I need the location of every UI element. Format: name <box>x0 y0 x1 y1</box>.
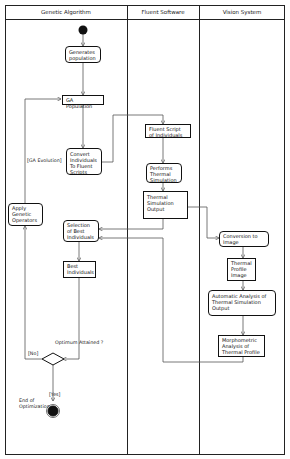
node-fluent-script: Fluent Script of Individuals <box>145 124 191 138</box>
label-no: [No] <box>28 351 38 357</box>
label-yes: [Yes] <box>49 392 61 398</box>
node-thermal-simulation-output: Thermal Simulation Output <box>143 191 188 219</box>
node-apply-genetic-operators: Apply Genetic Operators <box>8 203 43 226</box>
label-end-of-optimization: End of Optimization <box>19 398 49 409</box>
connector-lines <box>0 0 290 459</box>
node-ga-population: GA Population <box>62 95 104 105</box>
node-thermal-profile-image: Thermal Profile Image <box>227 258 256 281</box>
node-selection-best-individuals: Selection of Best Individuals <box>63 220 99 242</box>
start-node <box>79 26 88 35</box>
node-best-individuals: Best Individuals <box>63 261 96 278</box>
node-automatic-analysis: Automatic Analysis of Thermal Simulation… <box>208 290 276 316</box>
node-morphometric-analysis: Morphometric Analysis of Thermal Profile <box>218 335 265 357</box>
node-performs-thermal-simulation: Performs Thermal Simulation <box>146 163 182 183</box>
node-conversion-to-image: Conversion to Image <box>219 231 269 247</box>
node-convert-individuals: Convert Individuals To Fluent Scripts <box>66 148 102 175</box>
label-optimum-attained: Optimum Attained ? <box>55 340 103 346</box>
node-generates-population: Generates population <box>65 46 101 63</box>
label-ga-evolution: [GA Evolution] <box>27 158 62 164</box>
